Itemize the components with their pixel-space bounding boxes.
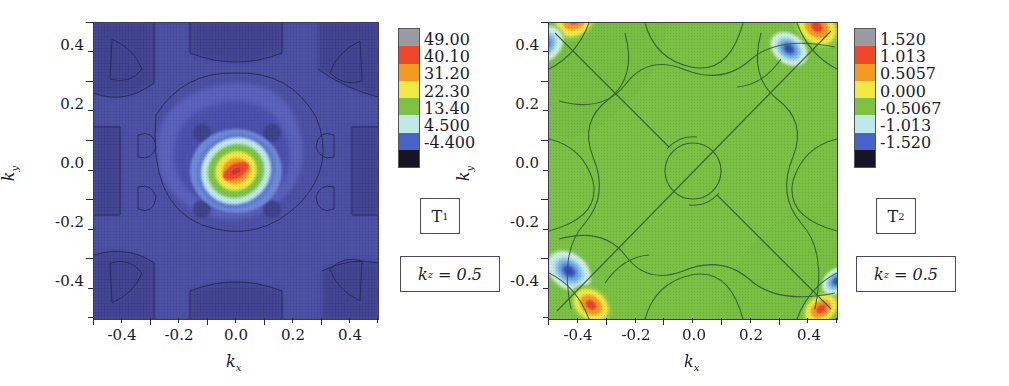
- xtick-label: -0.4: [564, 328, 593, 343]
- ytick-label: 0.2: [40, 97, 84, 112]
- colorbar-swatch: [855, 64, 875, 81]
- ytick-mark: [543, 170, 548, 171]
- ytick-mark: [541, 258, 548, 259]
- ytick-mark: [88, 288, 93, 289]
- xtick-label: 0.0: [224, 328, 248, 343]
- colorbar-swatch: [399, 64, 419, 81]
- ytick-label: 0.0: [495, 156, 539, 171]
- contour-plot-T1: [93, 22, 379, 320]
- ytick-label: -0.2: [487, 215, 539, 230]
- ytick-mark: [543, 317, 548, 318]
- panel-label-box-T2: T2: [876, 198, 916, 234]
- y-axis-label: ky: [454, 166, 475, 181]
- ytick-mark: [543, 229, 548, 230]
- colorbar-tick-label: 0.000: [880, 83, 941, 100]
- xtick-mark: [150, 318, 151, 325]
- xtick-mark: [635, 318, 636, 323]
- xtick-mark: [321, 318, 322, 325]
- ytick-mark: [88, 110, 93, 111]
- ytick-mark: [541, 81, 548, 82]
- colorbar-swatch: [399, 133, 419, 150]
- xtick-label: -0.2: [622, 328, 651, 343]
- xtick-mark: [292, 318, 293, 323]
- xtick-mark: [606, 318, 607, 325]
- xtick-mark: [750, 318, 751, 323]
- colorbar-tick-label: 1.013: [880, 48, 941, 65]
- contour-plot-T2: [548, 22, 838, 320]
- colorbar-swatch: [399, 98, 419, 115]
- xtick-label: -0.4: [108, 328, 137, 343]
- contour-surface-T1: [94, 23, 378, 319]
- xtick-mark: [692, 318, 693, 323]
- panel-T1: -0.4 -0.2 0.0 0.2 0.4 kx 0.4 0.2 0.0 -0.…: [0, 0, 505, 386]
- xtick-label: 0.2: [281, 328, 305, 343]
- xtick-mark: [548, 318, 549, 325]
- ytick-mark: [88, 170, 93, 171]
- xtick-mark: [721, 318, 722, 325]
- xtick-label: 0.2: [739, 328, 763, 343]
- colorbar-swatch: [399, 150, 419, 167]
- colorbar-tick-label: -1.520: [880, 134, 941, 151]
- xtick-label: -0.2: [165, 328, 194, 343]
- colorbar-swatch: [855, 133, 875, 150]
- xtick-mark: [663, 318, 664, 325]
- panel-T2: -0.4 -0.2 0.0 0.2 0.4 kx 0.4 0.2 0.0 -0.…: [452, 0, 1009, 386]
- ytick-mark: [541, 140, 548, 141]
- xtick-mark: [779, 318, 780, 325]
- colorbar-swatch: [399, 29, 419, 46]
- ytick-mark: [86, 81, 93, 82]
- contour-surface-T2: [549, 23, 837, 319]
- xtick-mark: [121, 318, 122, 323]
- colorbar-tick-label: -0.5067: [880, 100, 941, 117]
- colorbar-swatch: [399, 115, 419, 132]
- colorbar-tick-label: -1.013: [880, 117, 941, 134]
- xtick-mark: [577, 318, 578, 323]
- colorbar-swatch: [399, 81, 419, 98]
- ytick-label: -0.4: [32, 274, 84, 289]
- colorbar-labels-T2: 1.520 1.013 0.5057 0.000 -0.5067 -1.013 …: [880, 31, 941, 151]
- colorbar-swatch: [855, 29, 875, 46]
- xtick-mark: [807, 318, 808, 323]
- xtick-mark: [264, 318, 265, 325]
- ytick-mark: [543, 51, 548, 52]
- ytick-mark: [88, 317, 93, 318]
- ytick-mark: [88, 229, 93, 230]
- x-axis-label: kx: [684, 352, 699, 373]
- xtick-label: 0.4: [797, 328, 821, 343]
- ytick-mark: [86, 199, 93, 200]
- x-axis-label: kx: [226, 352, 241, 373]
- ytick-label: 0.4: [40, 38, 84, 53]
- colorbar-swatch: [855, 81, 875, 98]
- xtick-label: 0.0: [682, 328, 706, 343]
- ytick-mark: [86, 22, 93, 23]
- xtick-mark: [235, 318, 236, 323]
- ytick-label: -0.2: [32, 215, 84, 230]
- xtick-mark: [93, 318, 94, 325]
- colorbar-swatch: [399, 46, 419, 63]
- xtick-label: 0.4: [338, 328, 362, 343]
- colorbar-tick-label: 1.520: [880, 31, 941, 48]
- ytick-mark: [88, 51, 93, 52]
- colorbar-T2: [854, 28, 876, 168]
- colorbar-swatch: [855, 115, 875, 132]
- colorbar-swatch: [855, 98, 875, 115]
- ytick-label: -0.4: [487, 274, 539, 289]
- ytick-mark: [86, 140, 93, 141]
- param-box-T2: kz = 0.5: [856, 256, 956, 292]
- ytick-mark: [543, 110, 548, 111]
- xtick-mark: [836, 318, 837, 323]
- ytick-mark: [541, 22, 548, 23]
- ytick-mark: [541, 199, 548, 200]
- colorbar-tick-label: 0.5057: [880, 65, 941, 82]
- y-axis-label: ky: [0, 166, 20, 181]
- ytick-mark: [86, 258, 93, 259]
- colorbar-T1: [398, 28, 420, 168]
- xtick-mark: [377, 318, 378, 323]
- xtick-mark: [178, 318, 179, 323]
- xtick-mark: [349, 318, 350, 323]
- ytick-label: 0.4: [495, 38, 539, 53]
- ytick-label: 0.0: [40, 156, 84, 171]
- colorbar-swatch: [855, 150, 875, 167]
- colorbar-swatch: [855, 46, 875, 63]
- ytick-mark: [543, 288, 548, 289]
